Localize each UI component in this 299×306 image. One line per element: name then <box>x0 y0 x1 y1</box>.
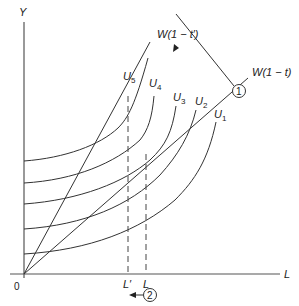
svg-text:U: U <box>149 77 157 89</box>
svg-text:U: U <box>195 95 203 107</box>
callout-2: 2 <box>129 289 157 302</box>
origin-label: 0 <box>14 281 20 292</box>
callout-1-number: 1 <box>236 86 242 97</box>
svg-text:U: U <box>123 70 131 82</box>
indifference-curve-u4 <box>24 96 154 183</box>
label-u3: U 3 <box>173 91 186 106</box>
indifference-curve-u2 <box>24 110 196 229</box>
indifference-curve-u1 <box>24 122 216 254</box>
arrow-head-icon <box>173 44 179 52</box>
svg-text:U: U <box>214 108 222 120</box>
label-u2: U 2 <box>195 95 208 110</box>
indifference-curve-u3 <box>24 106 176 204</box>
callout-2-number: 2 <box>147 290 153 301</box>
x-axis-label: L <box>284 268 290 280</box>
label-u1: U 1 <box>214 108 227 123</box>
callout-1: 1 <box>173 14 246 98</box>
rotation-arrow-shaft <box>176 14 234 86</box>
svg-text:5: 5 <box>131 76 136 85</box>
svg-text:3: 3 <box>181 97 186 106</box>
y-axis-label: Y <box>19 6 27 18</box>
budget-line-w1mt-label: W(1 − t) <box>252 66 292 78</box>
svg-text:2: 2 <box>203 101 208 110</box>
svg-text:U: U <box>173 91 181 103</box>
marker-l-label: L <box>143 278 149 290</box>
labour-supply-diagram: Y L 0 W(1 − t′) W(1 − t) U 5 U 4 U 3 U 2… <box>0 0 299 306</box>
marker-lprime-label: L′ <box>123 278 132 290</box>
svg-text:4: 4 <box>157 83 162 92</box>
svg-text:1: 1 <box>222 114 227 123</box>
left-arrow-head-icon <box>129 292 136 298</box>
label-u4: U 4 <box>149 77 162 92</box>
